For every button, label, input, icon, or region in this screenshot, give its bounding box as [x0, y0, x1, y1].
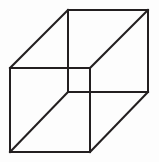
- connector-top-right: [90, 10, 148, 68]
- figure-canvas: [0, 0, 159, 162]
- necker-cube-drawing: [0, 0, 159, 162]
- connector-bottom-left: [10, 92, 68, 152]
- connector-top-left: [10, 10, 68, 68]
- connector-bottom-right: [90, 92, 148, 152]
